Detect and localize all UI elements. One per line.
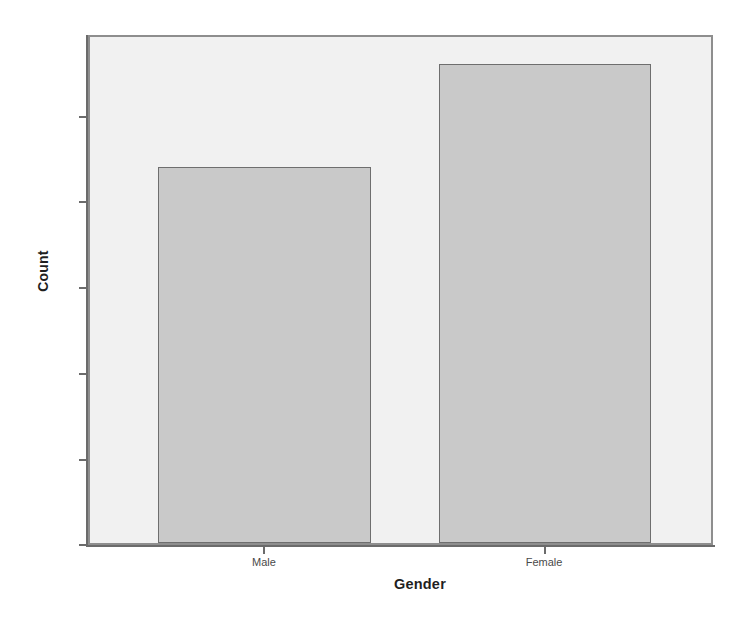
x-axis-line <box>86 545 715 547</box>
y-tickmark <box>79 116 86 118</box>
bar-female <box>439 64 651 543</box>
x-axis-title: Gender <box>350 576 490 592</box>
x-tickmark <box>263 547 265 554</box>
x-tickmark <box>544 547 546 554</box>
plot-area <box>88 35 713 545</box>
bar-chart-figure: 12.5 10.0 7.5 5.0 2.5 0.0 Count Male Fem… <box>0 0 752 631</box>
y-tickmark <box>79 544 86 546</box>
y-tickmark <box>79 287 86 289</box>
y-axis-title: Count <box>35 239 51 303</box>
y-tickmark <box>79 373 86 375</box>
bar-male <box>158 167 371 543</box>
y-tickmark <box>79 201 86 203</box>
y-axis-ticks: 12.5 10.0 7.5 5.0 2.5 0.0 <box>0 0 79 631</box>
x-tick-label-female: Female <box>474 556 614 568</box>
y-tickmark <box>79 459 86 461</box>
y-axis-line <box>86 35 88 547</box>
x-tick-label-male: Male <box>194 556 334 568</box>
